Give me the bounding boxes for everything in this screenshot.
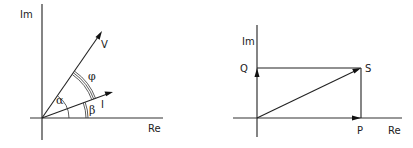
- phi-label: φ: [88, 70, 96, 83]
- right-panel: Im Re S P Q: [233, 25, 402, 137]
- beta-arc-1: [83, 103, 86, 118]
- alpha-label: α: [56, 94, 64, 107]
- i-arrowhead-icon: [105, 92, 114, 97]
- phasor-diagram: Im Re V I α φ β Im Re S: [0, 0, 413, 148]
- s-label: S: [365, 63, 371, 74]
- s-arrowhead-icon: [352, 68, 361, 74]
- q-arrowhead-icon: [255, 68, 260, 77]
- left-im-label: Im: [20, 9, 33, 20]
- right-re-label: Re: [388, 125, 401, 136]
- beta-label: β: [89, 104, 95, 117]
- i-label: I: [101, 99, 104, 110]
- left-panel: Im Re V I α φ β: [20, 4, 163, 140]
- p-arrowhead-icon: [352, 116, 361, 121]
- q-label: Q: [240, 63, 248, 74]
- right-im-label: Im: [242, 36, 255, 47]
- i-vector: [42, 93, 110, 118]
- left-re-label: Re: [148, 123, 161, 134]
- s-vector: [257, 70, 358, 119]
- p-label: P: [357, 125, 363, 136]
- v-label: V: [101, 39, 108, 50]
